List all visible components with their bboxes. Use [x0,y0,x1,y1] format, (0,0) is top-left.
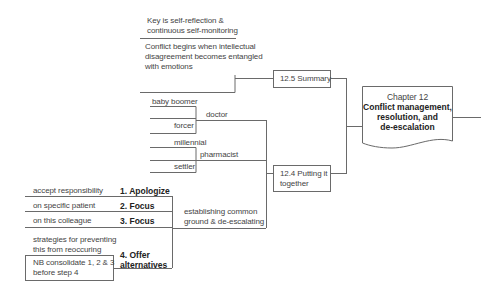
summary-label: 12.5 Summary [280,74,331,84]
step4-note-box[interactable]: NB consolidate 1, 2 & 3 before step 4 [25,255,114,281]
root-node[interactable]: Chapter 12 Conflict management, resoluti… [362,86,453,150]
step4-detail-line1: strategies for preventing [33,235,116,245]
doctor-child-baby-boomer[interactable]: baby boomer [152,97,198,107]
root-title-line1: Conflict management, [362,102,453,112]
root-title-line3: de-escalation [362,122,453,132]
root-chapter: Chapter 12 [362,92,453,102]
branch-pharmacist[interactable]: pharmacist [200,150,238,160]
step1-label[interactable]: 1. Apologize [120,186,170,196]
summary-child-line2: continuous self-monitoring [147,26,238,36]
step4-label-line1[interactable]: 4. Offer [120,250,150,260]
step3-detail[interactable]: on this colleague [33,216,91,226]
doctor-child-forcer[interactable]: forcer [174,121,194,131]
step4-label-line2[interactable]: alternatives [120,260,167,270]
step1-detail[interactable]: accept responsibility [33,186,103,196]
summary-child-conflict-box[interactable]: Conflict begins when intellectual disagr… [140,38,236,75]
summary-child-line1: Key is self-reflection & [147,16,224,26]
pharmacist-child-millennial[interactable]: millennial [174,138,206,148]
step4-note-line1: NB consolidate 1, 2 & 3 [33,258,114,268]
establishing-label-line2: ground & de-escalating [184,217,264,227]
root-title-line2: resolution, and [362,112,453,122]
putting-together-node[interactable]: 12.4 Putting it together [273,165,331,192]
step3-label[interactable]: 3. Focus [120,216,154,226]
summary-node[interactable]: 12.5 Summary [273,70,331,88]
step2-label[interactable]: 2. Focus [120,201,154,211]
putting-together-label-line1: 12.4 Putting it [280,169,327,179]
step4-detail-line2: this from reoccuring [33,245,101,255]
step4-note-line2: before step 4 [33,268,78,278]
pharmacist-child-settler[interactable]: settler [174,162,195,172]
putting-together-label-line2: together [280,179,309,189]
establishing-label-line1: establishing common [184,207,257,217]
summary-child-line2: disagreement becomes entangled [145,52,263,62]
branch-doctor[interactable]: doctor [206,110,228,120]
summary-child-line1: Conflict begins when intellectual [145,42,256,52]
step2-detail[interactable]: on specific patient [33,201,95,211]
summary-child-line3: with emotions [145,62,193,72]
